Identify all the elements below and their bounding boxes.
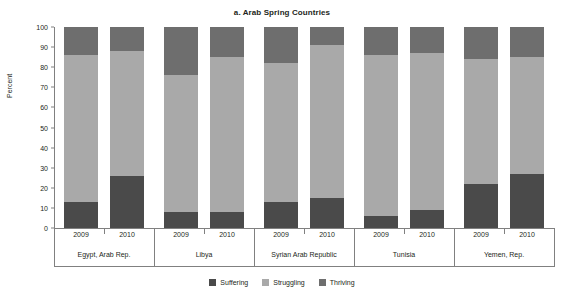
x-axis-group-separator [154, 229, 155, 267]
chart-figure: a. Arab Spring Countries Percent 0102030… [0, 0, 564, 300]
bar-segment-suffering [310, 198, 344, 228]
stacked-bar-yemen-rep-2009 [464, 27, 498, 228]
bar-segment-suffering [364, 216, 398, 228]
x-axis-country-label: Yemen, Rep. [484, 251, 524, 258]
stacked-bar-tunisia-2009 [364, 27, 398, 228]
x-axis-year-label: 2009 [373, 231, 389, 238]
stacked-bar-yemen-rep-2010 [510, 27, 544, 228]
legend-label: Thriving [330, 279, 355, 286]
legend-swatch-icon [209, 279, 216, 286]
x-axis-year-separator [204, 229, 205, 234]
bar-segment-struggling [264, 63, 298, 202]
x-axis-year-label: 2010 [319, 231, 335, 238]
bar-segment-suffering [510, 174, 544, 228]
bar-segment-suffering [210, 212, 244, 228]
category-axis: 20092010Egypt, Arab Rep.20092010Libya200… [54, 229, 555, 273]
bar-segment-thriving [264, 27, 298, 63]
chart-title: a. Arab Spring Countries [0, 8, 564, 17]
bar-segment-suffering [464, 184, 498, 228]
bar-segment-struggling [410, 53, 444, 210]
bar-segment-thriving [64, 27, 98, 55]
plot-area: 0102030405060708090100 [54, 27, 554, 228]
bar-segment-thriving [310, 27, 344, 45]
x-axis-country-label: Syrian Arab Republic [271, 251, 336, 258]
y-axis-tick-mark [51, 67, 54, 68]
y-axis-tick-mark [51, 107, 54, 108]
bar-segment-struggling [510, 57, 544, 174]
x-axis-year-separator [304, 229, 305, 234]
x-axis-year-separator [104, 229, 105, 234]
y-axis-tick-mark [51, 27, 54, 28]
x-axis-country-label: Libya [196, 251, 213, 258]
stacked-bar-egypt-arab-rep-2009 [64, 27, 98, 228]
legend-label: Suffering [220, 279, 248, 286]
bar-segment-suffering [264, 202, 298, 228]
x-axis-group-separator [454, 229, 455, 267]
x-axis-country-label: Egypt, Arab Rep. [78, 251, 131, 258]
bar-segment-thriving [410, 27, 444, 53]
bar-segment-struggling [364, 55, 398, 216]
x-axis-year-label: 2009 [173, 231, 189, 238]
x-axis-year-label: 2009 [473, 231, 489, 238]
legend-item-struggling[interactable]: Struggling [262, 279, 305, 286]
x-axis-year-separator [404, 229, 405, 234]
legend-item-thriving[interactable]: Thriving [319, 279, 355, 286]
y-axis-tick-mark [51, 207, 54, 208]
y-axis-tick-mark [51, 87, 54, 88]
bar-segment-suffering [410, 210, 444, 228]
stacked-bar-tunisia-2010 [410, 27, 444, 228]
x-axis-year-label: 2009 [273, 231, 289, 238]
bar-segment-struggling [64, 55, 98, 202]
x-axis-year-label: 2010 [519, 231, 535, 238]
bar-segment-struggling [110, 51, 144, 176]
x-axis-year-label: 2009 [73, 231, 89, 238]
category-axis-baseline [54, 266, 555, 267]
legend-swatch-icon [319, 279, 326, 286]
x-axis-group-separator [254, 229, 255, 267]
x-axis-country-label: Tunisia [393, 251, 415, 258]
bar-segment-struggling [164, 75, 198, 212]
legend-label: Struggling [273, 279, 305, 286]
y-axis-tick-mark [51, 187, 54, 188]
stacked-bar-syrian-arab-republic-2010 [310, 27, 344, 228]
bar-segment-thriving [164, 27, 198, 75]
y-axis-tick-mark [51, 47, 54, 48]
y-axis-tick-mark [51, 147, 54, 148]
y-axis-label: Percent [6, 74, 13, 98]
stacked-bar-libya-2009 [164, 27, 198, 228]
x-axis-year-label: 2010 [419, 231, 435, 238]
bar-segment-thriving [210, 27, 244, 57]
x-axis-year-separator [504, 229, 505, 234]
stacked-bar-egypt-arab-rep-2010 [110, 27, 144, 228]
bar-segment-thriving [464, 27, 498, 59]
x-axis-year-label: 2010 [119, 231, 135, 238]
x-axis-group-separator [54, 229, 55, 267]
x-axis-group-separator [354, 229, 355, 267]
bar-segment-suffering [110, 176, 144, 228]
bar-segment-struggling [464, 59, 498, 184]
bar-segment-suffering [64, 202, 98, 228]
bar-segment-struggling [310, 45, 344, 198]
y-axis-tick-mark [51, 127, 54, 128]
legend-swatch-icon [262, 279, 269, 286]
stacked-bar-libya-2010 [210, 27, 244, 228]
x-axis-group-separator [554, 229, 555, 267]
legend-item-suffering[interactable]: Suffering [209, 279, 248, 286]
bar-segment-suffering [164, 212, 198, 228]
y-axis-tick-mark [51, 167, 54, 168]
bar-segment-struggling [210, 57, 244, 212]
x-axis-year-label: 2010 [219, 231, 235, 238]
bar-segment-thriving [110, 27, 144, 51]
stacked-bar-syrian-arab-republic-2009 [264, 27, 298, 228]
chart-legend: SufferingStrugglingThriving [0, 279, 564, 286]
bar-segment-thriving [510, 27, 544, 57]
bar-segment-thriving [364, 27, 398, 55]
